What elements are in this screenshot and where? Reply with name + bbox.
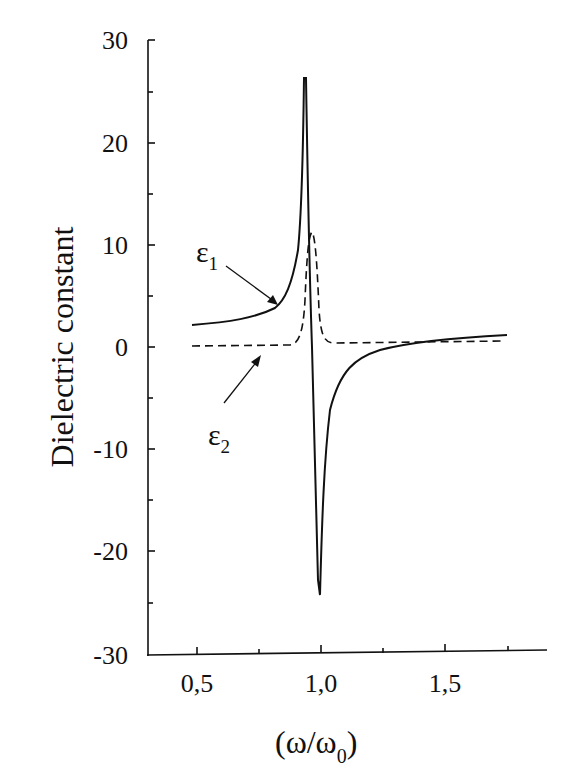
eps2-annotation: ε2 (208, 355, 261, 457)
y-axis (148, 40, 155, 656)
y-tick-10: 10 (102, 231, 128, 260)
eps2-arrow-line (224, 360, 258, 403)
eps2-curve (192, 232, 505, 346)
y-tick-labels: 30 20 10 0 -10 -20 -30 (93, 26, 128, 670)
eps2-label: ε (208, 418, 221, 451)
svg-text:(ω/ω0): (ω/ω0) (275, 724, 357, 767)
eps1-annotation: ε1 (196, 235, 278, 305)
eps1-arrow-line (226, 266, 275, 302)
x-axis-title-main: (ω/ω (275, 724, 337, 760)
svg-text:ε2: ε2 (208, 418, 230, 457)
x-tick-labels: 0,5 1,0 1,5 (181, 669, 462, 698)
eps2-arrowhead-icon (251, 355, 261, 367)
y-tick-neg10: -10 (93, 435, 128, 464)
eps2-sub: 2 (221, 436, 231, 457)
y-tick-20: 20 (102, 129, 128, 158)
svg-text:ε1: ε1 (196, 235, 218, 274)
y-tick-30: 30 (102, 26, 128, 55)
x-axis-title-sub: 0 (337, 745, 347, 767)
eps1-curve (192, 78, 507, 595)
y-axis-title: Dielectric constant (44, 227, 80, 468)
x-tick-0-5: 0,5 (181, 669, 214, 698)
x-axis-title-close: ) (347, 724, 358, 760)
y-tick-0: 0 (115, 333, 128, 362)
x-tick-1-0: 1,0 (305, 669, 338, 698)
eps1-sub: 1 (209, 253, 219, 274)
x-axis (147, 644, 547, 655)
y-tick-neg20: -20 (93, 537, 128, 566)
eps1-arrowhead-icon (267, 295, 278, 305)
x-axis-title: (ω/ω0) (275, 724, 357, 767)
dielectric-chart: 30 20 10 0 -10 -20 -30 0,5 1,0 1,5 Diele… (0, 0, 566, 784)
y-tick-neg30: -30 (93, 641, 128, 670)
eps1-label: ε (196, 235, 209, 268)
x-tick-1-5: 1,5 (429, 669, 462, 698)
